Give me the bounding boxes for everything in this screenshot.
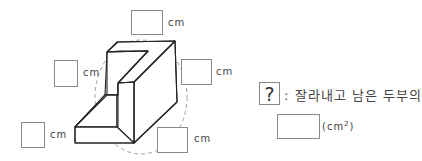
bottom-left-length-input[interactable]	[21, 122, 45, 148]
bottom-right-length-input[interactable]	[157, 127, 188, 153]
top-unit-label: cm	[168, 17, 185, 28]
answer-unit-open: (cm	[322, 121, 344, 132]
right-unit-label: cm	[216, 66, 233, 77]
answer-unit-label: (cm2)	[322, 120, 355, 132]
question-mark-box: ?	[259, 82, 280, 105]
right-length-input[interactable]	[181, 59, 212, 85]
bottom-right-unit-label: cm	[194, 133, 211, 144]
remaining-tofu-volume-input[interactable]	[277, 114, 320, 139]
question-caption: : 잘라내고 남은 두부의	[284, 85, 422, 104]
left-middle-length-input[interactable]	[54, 60, 78, 87]
left-middle-unit-label: cm	[83, 67, 100, 78]
answer-unit-close: )	[350, 121, 355, 132]
top-length-input[interactable]	[131, 10, 163, 35]
bottom-left-unit-label: cm	[50, 129, 67, 140]
